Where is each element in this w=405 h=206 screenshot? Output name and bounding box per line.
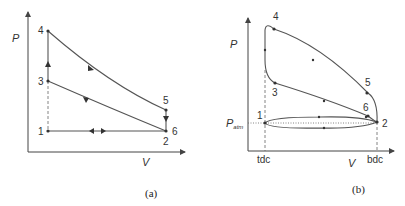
point-5-label-a: 5 <box>163 95 169 106</box>
point-6-label-a: 6 <box>172 126 178 137</box>
arrow-right-icon <box>101 128 106 134</box>
caption-b: (b) <box>352 183 365 196</box>
arrow-down-left-icon <box>83 97 89 103</box>
process-2-3 <box>48 81 166 131</box>
process-4-5 <box>48 31 166 110</box>
x-axis-label-b: V <box>348 157 357 169</box>
point-3-label-a: 3 <box>38 76 44 87</box>
pv-diagrams: P V 1 2 3 4 5 6 (a) <box>0 0 405 206</box>
p-atm-label: Patm <box>226 117 243 130</box>
arrow-up-icon <box>45 61 51 67</box>
x-axis-label-a: V <box>142 156 151 168</box>
arrow-left-icon <box>89 128 94 134</box>
point-4-label-b: 4 <box>273 11 279 22</box>
y-axis-label-a: P <box>12 32 20 44</box>
point-6-label-b: 6 <box>363 102 369 113</box>
point-3-label-b: 3 <box>272 87 278 98</box>
y-axis-label-b: P <box>230 38 238 50</box>
pumping-loop <box>265 117 377 128</box>
diagram-a: P V 1 2 3 4 5 6 (a) <box>12 12 185 200</box>
point-4-label-a: 4 <box>38 25 44 36</box>
point-1-label-a: 1 <box>38 126 44 137</box>
point-2-label-a: 2 <box>163 136 169 147</box>
point-2-label-b: 2 <box>382 118 388 129</box>
bdc-label: bdc <box>367 154 383 165</box>
diagram-b: P V 4 3 5 6 2 1 Patm tdc bdc (b) <box>226 11 394 196</box>
power-loop <box>265 26 377 122</box>
point-5-label-b: 5 <box>365 77 371 88</box>
point-1-label-b: 1 <box>257 110 263 121</box>
arrow-down-icon <box>163 116 169 122</box>
caption-a: (a) <box>145 187 158 200</box>
tdc-label: tdc <box>257 154 270 165</box>
